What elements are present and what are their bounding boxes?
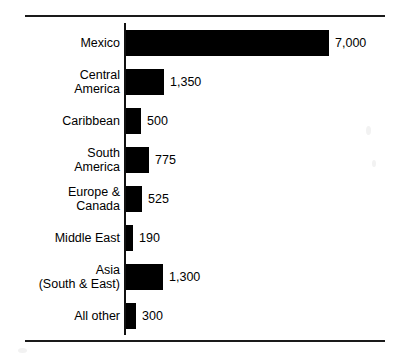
bar-row: Middle East190 <box>0 225 412 251</box>
category-label: All other <box>10 309 120 323</box>
bar-row: Asia (South & East)1,300 <box>0 264 412 290</box>
bar <box>126 69 164 95</box>
bar-chart-figure: Mexico7,000Central America1,350Caribbean… <box>0 0 412 356</box>
bar-row: Central America1,350 <box>0 69 412 95</box>
category-label: Middle East <box>10 231 120 245</box>
figure-bottom-rule <box>25 340 385 342</box>
bar-value-label: 1,300 <box>169 264 200 290</box>
bar <box>126 264 163 290</box>
bar <box>126 147 149 173</box>
plot-area: Mexico7,000Central America1,350Caribbean… <box>0 24 412 336</box>
bar <box>126 186 142 212</box>
category-label: Asia (South & East) <box>10 263 120 291</box>
bar <box>126 108 141 134</box>
bar <box>126 225 133 251</box>
bar-row: All other300 <box>0 303 412 329</box>
category-label: Europe & Canada <box>10 185 120 213</box>
bar-row: South America775 <box>0 147 412 173</box>
category-label: Caribbean <box>10 114 120 128</box>
bar <box>126 30 329 56</box>
bar-value-label: 1,350 <box>170 69 201 95</box>
bar-value-label: 500 <box>147 108 168 134</box>
bar-row: Mexico7,000 <box>0 30 412 56</box>
category-label: Mexico <box>10 36 120 50</box>
category-label: Central America <box>10 68 120 96</box>
scan-speckle <box>18 348 27 353</box>
bar-row: Caribbean500 <box>0 108 412 134</box>
bar-value-label: 190 <box>139 225 160 251</box>
figure-top-rule <box>25 15 385 17</box>
bar-value-label: 300 <box>142 303 163 329</box>
bar-value-label: 525 <box>148 186 169 212</box>
bar <box>126 303 136 329</box>
bar-value-label: 775 <box>155 147 176 173</box>
category-label: South America <box>10 146 120 174</box>
bar-row: Europe & Canada525 <box>0 186 412 212</box>
bar-value-label: 7,000 <box>335 30 366 56</box>
